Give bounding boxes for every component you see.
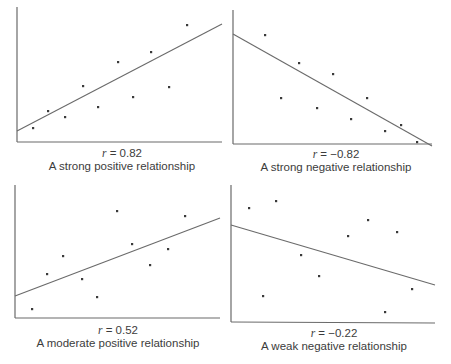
r-symbol: r: [311, 327, 315, 339]
r-value: r = −0.22: [234, 327, 434, 340]
relationship-description: A weak negative relationship: [234, 340, 434, 353]
data-point: [316, 107, 318, 109]
data-point: [64, 116, 66, 118]
data-point: [366, 97, 368, 99]
data-point: [298, 62, 300, 64]
data-point: [264, 34, 266, 36]
regression-line: [17, 24, 222, 131]
r-value: r = −0.82: [236, 148, 436, 161]
data-point: [62, 255, 64, 257]
relationship-description: A strong positive relationship: [22, 160, 222, 173]
data-point: [396, 231, 398, 233]
data-point: [150, 51, 152, 53]
data-point: [31, 308, 33, 310]
data-point: [149, 264, 151, 266]
data-point: [280, 97, 282, 99]
data-point: [167, 248, 169, 250]
r-symbol: r: [102, 147, 106, 159]
caption-strong-negative: r = −0.82 A strong negative relationship: [236, 148, 436, 174]
relationship-description: A strong negative relationship: [236, 161, 436, 174]
data-point: [347, 235, 349, 237]
data-point: [82, 85, 84, 87]
data-point: [248, 207, 250, 209]
scatter-panel-weak-negative: [231, 185, 435, 323]
data-point: [275, 200, 277, 202]
r-symbol: r: [98, 324, 102, 336]
data-point: [350, 118, 352, 120]
data-point: [367, 219, 369, 221]
data-point: [96, 296, 98, 298]
data-point: [318, 275, 320, 277]
regression-line: [231, 225, 435, 285]
r-number: = 0.82: [110, 147, 142, 159]
r-symbol: r: [313, 148, 317, 160]
data-point: [131, 243, 133, 245]
r-value: r = 0.52: [18, 324, 218, 337]
data-point: [262, 295, 264, 297]
scatter-plots: [0, 0, 451, 364]
data-point: [132, 96, 134, 98]
scatter-panel-moderate-positive: [15, 185, 220, 318]
data-point: [400, 124, 402, 126]
data-point: [81, 278, 83, 280]
data-point: [97, 106, 99, 108]
x-axis: [231, 322, 435, 323]
r-value: r = 0.82: [22, 147, 222, 160]
regression-line: [15, 218, 220, 296]
data-point: [384, 311, 386, 313]
data-point: [300, 254, 302, 256]
data-point: [46, 273, 48, 275]
data-point: [32, 127, 34, 129]
caption-strong-positive: r = 0.82 A strong positive relationship: [22, 147, 222, 173]
scatter-panel-strong-positive: [17, 7, 222, 142]
data-point: [47, 110, 49, 112]
data-point: [186, 24, 188, 26]
data-point: [411, 288, 413, 290]
r-number: = −0.82: [320, 148, 359, 160]
data-point: [117, 61, 119, 63]
relationship-description: A moderate positive relationship: [18, 337, 218, 350]
data-point: [168, 86, 170, 88]
r-number: = −0.22: [318, 327, 357, 339]
r-number: = 0.52: [106, 324, 138, 336]
data-point: [384, 130, 386, 132]
data-point: [332, 73, 334, 75]
caption-weak-negative: r = −0.22 A weak negative relationship: [234, 327, 434, 353]
scatter-panel-strong-negative: [233, 10, 432, 146]
data-point: [416, 141, 418, 143]
caption-moderate-positive: r = 0.52 A moderate positive relationshi…: [18, 324, 218, 350]
regression-line: [233, 34, 432, 146]
data-point: [116, 210, 118, 212]
data-point: [184, 215, 186, 217]
